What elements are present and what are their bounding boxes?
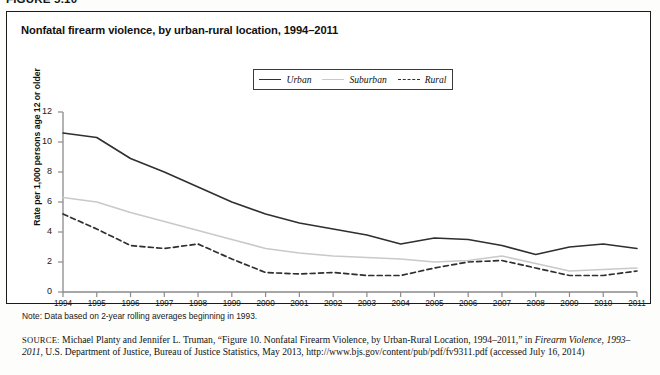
series-line-urban [63,133,637,255]
figure-page: FIGURE 5.10 Nonfatal firearm violence, b… [0,0,660,375]
source-part-2: , U.S. Department of Justice, Bureau of … [40,346,584,357]
figure-number-label: FIGURE 5.10 [6,0,77,5]
plot-area: Rate per 1,000 persons age 12 or older 0… [7,12,652,305]
chart-canvas [7,12,652,305]
source-part-1: Michael Planty and Jennifer L. Truman, “… [60,334,535,345]
chart-source: SOURCE: Michael Planty and Jennifer L. T… [22,334,647,359]
chart-note: Note: Data based on 2-year rolling avera… [22,311,257,321]
series-line-suburban [63,198,637,272]
source-tag: SOURCE: [22,335,60,345]
figure-frame: Nonfatal firearm violence, by urban-rura… [6,11,651,304]
